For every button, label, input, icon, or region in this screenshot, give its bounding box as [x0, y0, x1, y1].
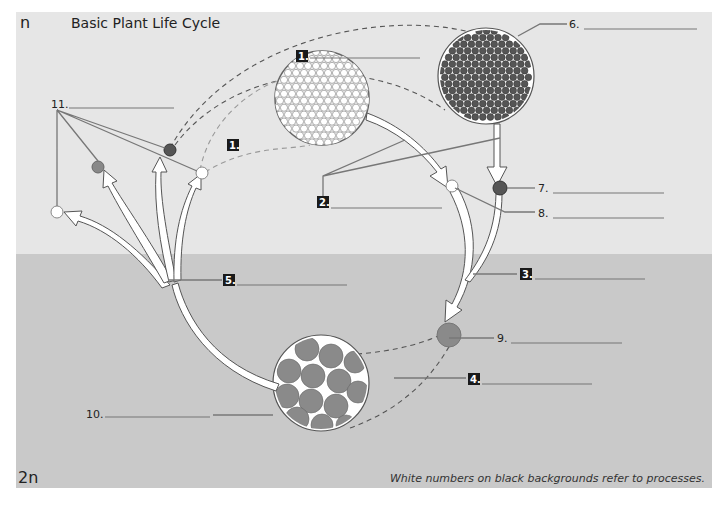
page-title: Basic Plant Life Cycle [71, 15, 220, 31]
white-spore-cell-left [51, 206, 63, 218]
white-spore-cell [196, 167, 208, 179]
white-gamete-cell [446, 180, 458, 192]
svg-text:2.: 2. [319, 197, 330, 208]
medium-spore-cell [92, 161, 104, 173]
svg-text:9.: 9. [497, 332, 508, 345]
svg-text:3.: 3. [522, 269, 533, 280]
svg-text:4.: 4. [470, 374, 481, 385]
dark-spore-cell [164, 144, 176, 156]
svg-text:11.: 11. [51, 98, 69, 111]
ploidy-label-2n: 2n [18, 468, 38, 487]
ploidy-label-n: n [20, 13, 30, 32]
svg-text:7.: 7. [538, 182, 549, 195]
svg-text:8.: 8. [538, 207, 549, 220]
dark-gamete-cell [493, 181, 507, 195]
zygote-cell [437, 323, 461, 347]
svg-text:6.: 6. [569, 18, 580, 31]
svg-text:10.: 10. [86, 408, 104, 421]
svg-text:1.: 1. [298, 51, 309, 62]
footnote: White numbers on black backgrounds refer… [390, 472, 705, 485]
svg-text:1.: 1. [229, 140, 240, 151]
plant-life-cycle-diagram: n Basic Plant Life Cycle [0, 0, 727, 505]
process-label-1b: 1. [227, 139, 240, 151]
svg-text:5.: 5. [225, 275, 236, 286]
dark-cell-cluster-icon [438, 28, 534, 124]
